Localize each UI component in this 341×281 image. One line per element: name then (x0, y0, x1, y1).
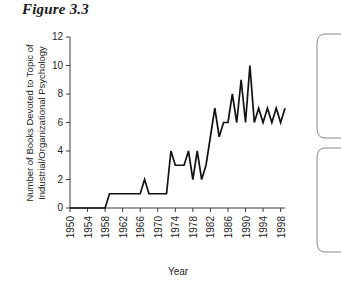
x-tick-label: 1966 (135, 216, 146, 239)
y-axis-title-line2: Industrial/Organizational Psychology (36, 46, 47, 200)
y-axis-tick-labels: 024681012 (52, 31, 64, 213)
y-tick-label: 0 (57, 202, 63, 213)
x-tick-label: 1982 (205, 216, 216, 239)
y-tick-label: 2 (57, 174, 63, 185)
x-tick-label: 1994 (258, 216, 269, 239)
y-tick-label: 12 (52, 31, 64, 42)
x-tick-label: 1978 (188, 216, 199, 239)
y-tick-label: 4 (57, 145, 63, 156)
x-tick-label: 1962 (118, 216, 129, 239)
x-tick-label: 1974 (170, 216, 181, 239)
x-tick-label: 1958 (100, 216, 111, 239)
x-tick-label: 1970 (153, 216, 164, 239)
x-tick-label: 1954 (83, 216, 94, 239)
figure-container: Figure 3.3 024681012 1950195419581962196… (0, 0, 341, 281)
lower-callout-box (317, 148, 341, 252)
x-axis-tick-labels: 1950195419581962196619701974197819821986… (65, 216, 287, 239)
x-tick-label: 1950 (65, 216, 76, 239)
y-tick-label: 6 (57, 117, 63, 128)
data-series-line (70, 66, 285, 209)
x-axis-title: Year (168, 266, 189, 277)
upper-callout-box (317, 34, 341, 138)
y-axis-title-line1: Number of Books Devoted to Topic of (24, 44, 35, 202)
y-axis-tick-marks (66, 37, 70, 208)
y-tick-label: 10 (52, 60, 64, 71)
x-tick-label: 1998 (276, 216, 287, 239)
line-chart: 024681012 195019541958196219661970197419… (0, 0, 341, 281)
x-tick-label: 1990 (241, 216, 252, 239)
x-tick-label: 1986 (223, 216, 234, 239)
y-tick-label: 8 (57, 88, 63, 99)
